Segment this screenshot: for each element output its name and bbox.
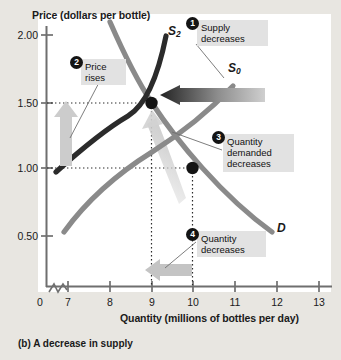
leader-line-1 xyxy=(196,44,224,78)
callout-quantity-demanded-decreases: Quantity demanded decreases xyxy=(223,134,294,172)
quantity-decreases-arrow xyxy=(145,259,192,281)
curve-label-S0: S0 xyxy=(228,61,241,76)
curve-label-D: D xyxy=(277,221,286,235)
curve-label-S2-letter: S xyxy=(168,24,176,38)
curve-label-S2-subscript: 2 xyxy=(176,29,181,39)
curve-label-S2: S2 xyxy=(168,24,181,39)
original-equilibrium-point xyxy=(186,162,198,174)
supply-demand-figure: Price (dollars per bottle) Quantity (mil… xyxy=(0,0,341,360)
callout-badge-2: 2 xyxy=(70,56,83,69)
callout-price-rises: Price rises xyxy=(81,59,126,85)
axis-break-zigzag xyxy=(49,284,67,292)
new-equilibrium-point xyxy=(145,97,157,109)
plot-vector-layer xyxy=(0,0,341,360)
curve-label-S0-letter: S xyxy=(228,61,236,75)
callout-badge-1: 1 xyxy=(186,17,199,30)
callout-supply-decreases: Supply decreases xyxy=(197,20,268,46)
supply-shift-arrow xyxy=(160,85,265,105)
callout-quantity-decreases: Quantity decreases xyxy=(197,231,266,257)
callout-badge-3: 3 xyxy=(212,131,225,144)
curve-label-S0-subscript: 0 xyxy=(236,66,241,76)
callout-badge-4: 4 xyxy=(186,228,199,241)
